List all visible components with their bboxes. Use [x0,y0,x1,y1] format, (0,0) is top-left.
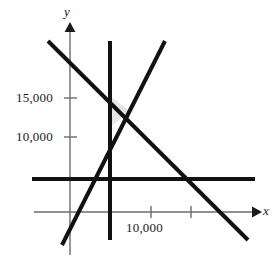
x-tick-label-10000: 10,000 [126,220,163,236]
x-axis-name: x [263,203,269,219]
x-axis [34,206,262,218]
graph-figure: 15,000 10,000 10,000 y x [0,0,277,263]
x-axis-arrowhead [252,207,262,218]
y-tick-label-10000: 10,000 [16,129,53,145]
y-axis-name: y [64,4,70,20]
y-axis-arrowhead [65,22,76,32]
y-tick-label-15000: 15,000 [16,90,53,106]
